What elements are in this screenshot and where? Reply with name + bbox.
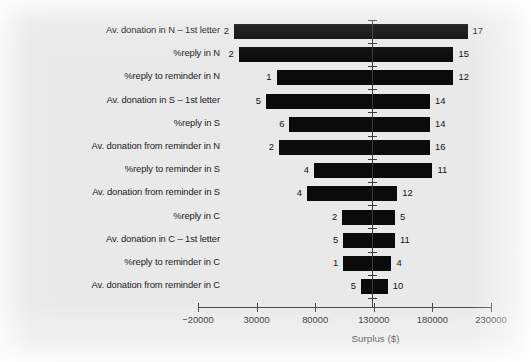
tornado-bar [234, 24, 468, 39]
bar-low-value-label: 2 [241, 141, 274, 152]
tornado-bar [343, 256, 391, 271]
tornado-row: Av. donation from reminder in C510 [0, 276, 531, 298]
bar-high-value-label: 16 [435, 141, 445, 152]
row-category-label: Av. donation in N – 1st letter [8, 24, 220, 35]
tornado-row: Av. donation in N – 1st letter217 [0, 21, 531, 43]
center-tick [368, 298, 377, 299]
center-tick [368, 43, 377, 44]
bar-high-value-label: 14 [435, 118, 445, 129]
tornado-bar [314, 163, 432, 178]
bar-high-value-label: 14 [435, 95, 445, 106]
tornado-bar [279, 140, 430, 155]
bar-low-value-label: 5 [305, 234, 338, 245]
bar-high-value-label: 5 [400, 211, 405, 222]
tornado-row: %reply to reminder in N112 [0, 67, 531, 89]
bar-low-value-label: 6 [251, 118, 284, 129]
tornado-row: Av. donation from reminder in N216 [0, 137, 531, 159]
tornado-row: %reply in S614 [0, 114, 531, 136]
row-category-label: %reply in N [8, 47, 220, 58]
bar-high-value-label: 11 [400, 234, 410, 245]
center-tick [368, 66, 377, 67]
bar-high-value-label: 15 [458, 48, 468, 59]
bar-low-value-label: 2 [304, 211, 337, 222]
center-tick [368, 89, 377, 90]
tornado-bar [343, 233, 395, 248]
x-axis-tick [491, 303, 492, 312]
bar-low-value-label: 1 [305, 257, 338, 268]
x-axis-title-text: Surplus ($) [352, 333, 400, 344]
tornado-bar [307, 186, 397, 201]
center-tick [368, 275, 377, 276]
tornado-row: Av. donation in S – 1st letter514 [0, 91, 531, 113]
tornado-bar [239, 47, 454, 62]
bar-low-value-label: 1 [239, 71, 272, 82]
center-tick [368, 228, 377, 229]
bar-low-value-label: 5 [228, 95, 261, 106]
center-tick [368, 205, 377, 206]
baseline-reference-line [372, 20, 373, 308]
row-category-label: %reply in C [8, 210, 220, 221]
bar-high-value-label: 12 [458, 71, 468, 82]
bar-high-value-label: 17 [473, 25, 483, 36]
tornado-bar [361, 279, 388, 294]
row-category-label: %reply in S [8, 117, 220, 128]
x-axis-tick [374, 303, 375, 312]
row-category-label: Av. donation from reminder in S [8, 186, 220, 197]
row-category-label: %reply to reminder in N [8, 70, 220, 81]
tornado-chart-figure: Av. donation in N – 1st letter217%reply … [0, 0, 531, 362]
row-category-label: %reply to reminder in S [8, 163, 220, 174]
center-tick [368, 159, 377, 160]
tornado-bar [289, 117, 430, 132]
tornado-bar [266, 94, 430, 109]
bar-high-value-label: 12 [402, 187, 412, 198]
tornado-row: %reply in C25 [0, 207, 531, 229]
tornado-row: %reply in N215 [0, 44, 531, 66]
row-category-label: Av. donation from reminder in N [8, 140, 220, 151]
bar-high-value-label: 10 [393, 280, 403, 291]
bar-low-value-label: 4 [276, 164, 309, 175]
center-tick [368, 20, 377, 21]
tornado-row: Av. donation in C – 1st letter511 [0, 230, 531, 252]
bar-high-value-label: 11 [437, 164, 447, 175]
center-tick [368, 136, 377, 137]
x-axis-line [198, 307, 491, 308]
x-axis-tick [315, 303, 316, 312]
x-axis-tick [432, 303, 433, 312]
tornado-bar [342, 210, 395, 225]
tornado-bar [277, 70, 454, 85]
row-category-label: Av. donation from reminder in C [8, 279, 220, 290]
row-category-label: Av. donation in C – 1st letter [8, 233, 220, 244]
tornado-row: Av. donation from reminder in S412 [0, 183, 531, 205]
center-tick [368, 182, 377, 183]
bar-low-value-label: 2 [196, 25, 229, 36]
tornado-row: %reply to reminder in S411 [0, 160, 531, 182]
center-tick [368, 112, 377, 113]
bar-low-value-label: 4 [269, 187, 302, 198]
x-axis-tick-label: 230000 [456, 314, 526, 325]
bar-high-value-label: 4 [396, 257, 401, 268]
x-axis-title: Surplus ($) [0, 333, 531, 344]
x-axis-tick [257, 303, 258, 312]
center-tick [368, 252, 377, 253]
bar-low-value-label: 2 [201, 48, 234, 59]
row-category-label: Av. donation in S – 1st letter [8, 94, 220, 105]
row-category-label: %reply to reminder in C [8, 256, 220, 267]
tornado-row: %reply to reminder in C14 [0, 253, 531, 275]
x-axis-tick [198, 303, 199, 312]
bar-low-value-label: 5 [323, 280, 356, 291]
